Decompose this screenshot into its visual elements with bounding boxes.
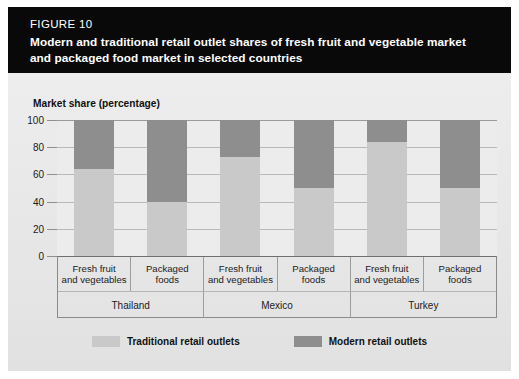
category-labels-row: Fresh fruitand vegetablesPackagedfoodsFr… — [58, 257, 496, 291]
category-label-5-line-0: Packaged — [439, 263, 482, 275]
bar-segment-traditional — [367, 142, 407, 256]
legend-item: Traditional retail outlets — [92, 336, 240, 347]
bar-thailand-fresh-fruit-and-vegetables — [74, 120, 114, 256]
legend-item: Modern retail outlets — [294, 336, 427, 347]
legend-swatch-modern — [294, 336, 322, 347]
category-label-1-line-1: foods — [146, 274, 189, 286]
bar-segment-modern — [367, 120, 407, 142]
gridline-80 — [57, 147, 497, 148]
bar-segment-modern — [440, 120, 480, 188]
group-label-thailand: Thailand — [58, 291, 204, 318]
bar-mexico-packaged-foods — [294, 120, 334, 256]
category-label-5: Packagedfoods — [424, 257, 496, 291]
category-label-1-line-0: Packaged — [146, 263, 189, 275]
group-labels-row: ThailandMexicoTurkey — [58, 291, 496, 318]
category-axis: Fresh fruitand vegetablesPackagedfoodsFr… — [57, 256, 497, 318]
figure-title: Modern and traditional retail outlet sha… — [30, 34, 497, 66]
bar-segment-modern — [220, 120, 260, 157]
y-tick-label-0: 0 — [8, 251, 44, 262]
bar-segment-modern — [147, 120, 187, 202]
bar-segment-modern — [294, 120, 334, 188]
legend-swatch-traditional — [92, 336, 120, 347]
gridline-60 — [57, 174, 497, 175]
plot-background — [57, 120, 497, 256]
plot-area — [57, 120, 497, 256]
category-label-4: Fresh fruitand vegetables — [351, 257, 424, 291]
figure-header: FIGURE 10 Modern and traditional retail … — [8, 7, 511, 73]
gridline-20 — [57, 229, 497, 230]
figure-title-line-2: and packaged food market in selected cou… — [30, 51, 302, 65]
y-tick-label-100: 100 — [8, 115, 44, 126]
category-label-3-line-1: foods — [292, 274, 335, 286]
bar-turkey-fresh-fruit-and-vegetables — [367, 120, 407, 256]
category-label-2-line-0: Fresh fruit — [208, 263, 273, 275]
category-label-4-line-0: Fresh fruit — [354, 263, 419, 275]
figure-title-line-1: Modern and traditional retail outlet sha… — [30, 35, 466, 49]
chart-plate: Market share (percentage) 020406080100 F… — [8, 73, 511, 371]
group-label-turkey: Turkey — [351, 291, 496, 318]
category-label-0: Fresh fruitand vegetables — [58, 257, 131, 291]
legend-label: Traditional retail outlets — [127, 336, 240, 347]
group-label-mexico: Mexico — [204, 291, 350, 318]
y-tick-label-20: 20 — [8, 223, 44, 234]
y-tick-label-80: 80 — [8, 142, 44, 153]
legend-label: Modern retail outlets — [329, 336, 427, 347]
figure-number: FIGURE 10 — [30, 17, 497, 32]
y-axis-title: Market share (percentage) — [33, 98, 160, 109]
bar-segment-traditional — [147, 202, 187, 256]
bar-turkey-packaged-foods — [440, 120, 480, 256]
category-label-3-line-0: Packaged — [292, 263, 335, 275]
y-tick-label-40: 40 — [8, 196, 44, 207]
category-label-4-line-1: and vegetables — [354, 274, 419, 286]
bar-thailand-packaged-foods — [147, 120, 187, 256]
bar-segment-traditional — [440, 188, 480, 256]
bar-segment-traditional — [74, 169, 114, 256]
bar-segment-traditional — [294, 188, 334, 256]
gridline-40 — [57, 202, 497, 203]
bar-segment-traditional — [220, 157, 260, 256]
category-label-5-line-1: foods — [439, 274, 482, 286]
gridline-100 — [57, 120, 497, 121]
category-label-0-line-0: Fresh fruit — [62, 263, 127, 275]
bar-segment-modern — [74, 120, 114, 169]
category-label-2-line-1: and vegetables — [208, 274, 273, 286]
category-label-2: Fresh fruitand vegetables — [204, 257, 277, 291]
bar-mexico-fresh-fruit-and-vegetables — [220, 120, 260, 256]
chart-legend: Traditional retail outletsModern retail … — [8, 336, 511, 347]
y-tick-label-60: 60 — [8, 169, 44, 180]
category-label-0-line-1: and vegetables — [62, 274, 127, 286]
figure-container: FIGURE 10 Modern and traditional retail … — [0, 0, 519, 379]
category-label-1: Packagedfoods — [131, 257, 204, 291]
category-label-3: Packagedfoods — [278, 257, 351, 291]
